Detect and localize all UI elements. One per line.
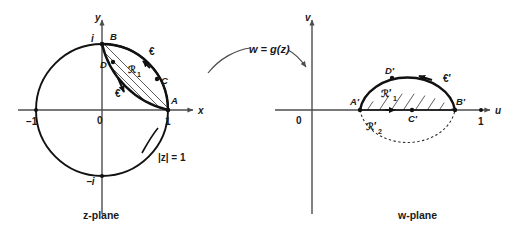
z-plane-caption: z-plane bbox=[83, 209, 119, 221]
mapping-arrow-left-tail bbox=[208, 48, 250, 73]
w-region1-subscript: 1 bbox=[393, 95, 397, 102]
w-point-label-C: C′ bbox=[408, 113, 418, 124]
w-point-dot-C bbox=[410, 108, 414, 112]
tick-label-i: i bbox=[91, 33, 94, 44]
tick-dot-minus-i bbox=[100, 174, 104, 178]
point-label-C: C bbox=[161, 75, 168, 86]
w-point-dot-A bbox=[358, 108, 362, 112]
w-region2-label: ℛ′ 2 bbox=[366, 121, 382, 135]
w-point-label-A: A′ bbox=[349, 96, 360, 107]
w-origin-label: 0 bbox=[296, 115, 302, 126]
point-label-B: B bbox=[110, 31, 117, 42]
z-origin-label: 0 bbox=[97, 115, 103, 126]
w-curve-label: €′ bbox=[443, 73, 452, 84]
w-region1-label: ℛ′ 1 bbox=[381, 88, 397, 102]
z-region-hatching bbox=[80, 20, 180, 208]
z-region-letter: ℛ bbox=[128, 64, 136, 75]
point-label-D: D bbox=[100, 59, 107, 70]
w-region2-letter: ℛ′ bbox=[366, 121, 377, 132]
z-plane-panel: x y 0 −1 1 i −i |z| = 1 bbox=[18, 12, 204, 221]
tick-label-minus-one: −1 bbox=[26, 116, 38, 127]
w-point-label-D: D′ bbox=[385, 65, 395, 76]
w-region2-subscript: 2 bbox=[378, 128, 382, 135]
w-axis-v-label: v bbox=[305, 12, 312, 23]
w-axis-u-label: u bbox=[495, 105, 501, 116]
mapping-label: w = g(z) bbox=[249, 43, 290, 55]
point-dot-A bbox=[166, 108, 170, 112]
arc-outer-BCA bbox=[102, 44, 168, 110]
mapping-annotation: w = g(z) bbox=[208, 43, 306, 73]
z-curve-label-lower: € bbox=[115, 88, 121, 99]
figure-conformal-mapping: x y 0 −1 1 i −i |z| = 1 bbox=[0, 0, 509, 238]
tick-label-one: 1 bbox=[165, 116, 171, 127]
arc-upper-image bbox=[360, 77, 455, 110]
z-curve-label-upper: € bbox=[149, 46, 155, 57]
w-point-dot-D bbox=[390, 76, 394, 80]
circle-label: |z| = 1 bbox=[158, 152, 186, 163]
w-plane-caption: w-plane bbox=[397, 209, 437, 221]
w-point-dot-B bbox=[453, 108, 457, 112]
w-tick-dot-one bbox=[479, 108, 483, 112]
tick-dot-minus-one bbox=[34, 108, 38, 112]
tick-label-minus-i: −i bbox=[86, 176, 95, 187]
z-region-label: ℛ 1 bbox=[128, 64, 141, 78]
z-region-subscript: 1 bbox=[137, 71, 141, 78]
point-label-A: A bbox=[170, 95, 178, 106]
w-point-label-B: B′ bbox=[456, 96, 466, 107]
point-dot-C bbox=[155, 77, 159, 81]
z-axis-x-label: x bbox=[197, 105, 204, 116]
w-tick-label-one: 1 bbox=[478, 116, 484, 127]
w-region1-letter: ℛ′ bbox=[381, 88, 392, 99]
point-dot-B bbox=[100, 42, 104, 46]
w-plane-panel: u v 0 1 A′ B′ bbox=[275, 12, 501, 221]
mapping-arrow-right-head bbox=[288, 50, 306, 67]
point-dot-D bbox=[111, 60, 115, 64]
z-axis-y-label: y bbox=[94, 12, 101, 23]
